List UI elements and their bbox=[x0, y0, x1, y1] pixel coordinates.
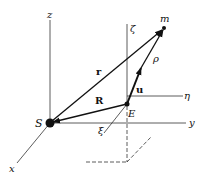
point-m bbox=[162, 26, 166, 30]
label-x: x bbox=[9, 163, 15, 174]
label-eta: η bbox=[184, 90, 190, 101]
vector-r bbox=[52, 30, 162, 121]
diagram-canvas: z y x ζ η ξ S E m r R u ρ bbox=[0, 0, 204, 180]
vector-R bbox=[53, 104, 127, 122]
label-u: u bbox=[136, 84, 143, 95]
label-r: r bbox=[96, 66, 102, 77]
label-S: S bbox=[35, 117, 43, 130]
label-zeta: ζ bbox=[130, 23, 136, 34]
label-R: R bbox=[95, 95, 104, 106]
point-S bbox=[46, 119, 55, 128]
label-y: y bbox=[188, 117, 195, 128]
coordinate-diagram: z y x ζ η ξ S E m r R u ρ bbox=[0, 0, 204, 180]
x-axis bbox=[17, 123, 50, 163]
label-rho: ρ bbox=[152, 53, 159, 64]
projection-diagonal bbox=[127, 137, 151, 162]
label-z: z bbox=[46, 9, 53, 20]
label-m: m bbox=[160, 13, 169, 24]
vector-rho bbox=[141, 30, 163, 68]
label-E: E bbox=[127, 108, 136, 119]
label-xi: ξ bbox=[98, 125, 104, 136]
point-E bbox=[125, 102, 130, 107]
